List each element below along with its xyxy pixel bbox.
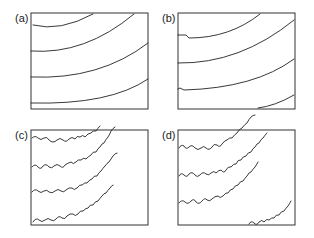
panel-c	[31, 126, 148, 225]
panel-d	[178, 115, 295, 225]
figure-canvas	[0, 0, 314, 238]
panel-b	[178, 13, 295, 109]
panel-a	[31, 13, 148, 109]
